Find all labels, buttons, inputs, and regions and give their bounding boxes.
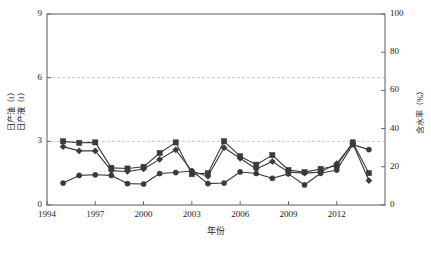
- data-point-circle-2004: [205, 181, 210, 186]
- y-left-label-6: 6: [24, 72, 42, 82]
- data-point-square-1997: [93, 140, 98, 145]
- data-point-square-2008: [270, 153, 275, 158]
- x-label-2009: 2009: [272, 209, 304, 219]
- y-right-label-0: 0: [390, 199, 412, 209]
- data-point-diamond-2008: [269, 158, 275, 164]
- series-diamond: [60, 140, 372, 183]
- data-point-circle-2003: [189, 168, 194, 173]
- data-point-circle-2005: [221, 180, 226, 185]
- x-axis-title: 年份: [196, 224, 236, 237]
- y-right-label-60: 60: [390, 84, 412, 94]
- y-right-label-40: 40: [390, 123, 412, 133]
- y-axis-left-title-liquid: 日产液（t）: [17, 79, 26, 139]
- data-point-circle-1998: [109, 173, 114, 178]
- x-label-2012: 2012: [321, 209, 353, 219]
- y-axis-right-title-watercut: 含水率（%）: [414, 80, 425, 140]
- y-left-label-3: 3: [24, 135, 42, 145]
- chart-container: 0369 020406080100 1994199720002003200620…: [0, 0, 431, 253]
- data-point-diamond-1995: [60, 144, 66, 150]
- data-point-circle-2009: [286, 171, 291, 176]
- data-point-circle-2000: [141, 181, 146, 186]
- x-label-2000: 2000: [128, 209, 160, 219]
- data-point-circle-2001: [157, 171, 162, 176]
- data-point-square-2001: [157, 150, 162, 155]
- data-point-circle-2006: [238, 169, 243, 174]
- data-point-circle-2010: [302, 182, 307, 187]
- y-right-label-20: 20: [390, 161, 412, 171]
- data-point-circle-1996: [77, 173, 82, 178]
- data-point-diamond-2001: [157, 156, 163, 162]
- y-right-label-80: 80: [390, 46, 412, 56]
- data-point-circle-2008: [270, 176, 275, 181]
- data-point-circle-1997: [93, 172, 98, 177]
- data-point-square-1996: [77, 140, 82, 145]
- data-point-circle-2013: [350, 142, 355, 147]
- data-point-circle-1999: [125, 181, 130, 186]
- data-point-circle-2002: [173, 170, 178, 175]
- y-axis-left-title-oil: 日产油（t）: [7, 79, 16, 139]
- x-label-2006: 2006: [224, 209, 256, 219]
- y-left-label-9: 9: [24, 8, 42, 18]
- data-point-circle-2012: [334, 167, 339, 172]
- y-left-label-0: 0: [24, 199, 42, 209]
- data-point-circle-1995: [61, 180, 66, 185]
- x-label-2003: 2003: [176, 209, 208, 219]
- x-label-1994: 1994: [31, 209, 63, 219]
- x-label-1997: 1997: [79, 209, 111, 219]
- data-point-circle-2007: [254, 171, 259, 176]
- plot-frame: [47, 14, 385, 205]
- chart-plot-svg: [0, 0, 431, 253]
- data-point-circle-2011: [318, 171, 323, 176]
- data-point-diamond-1996: [76, 148, 82, 154]
- y-right-label-100: 100: [390, 8, 412, 18]
- data-point-circle-2014: [366, 147, 371, 152]
- series-square: [61, 139, 372, 177]
- data-point-square-2002: [173, 140, 178, 145]
- data-point-diamond-2014: [366, 177, 372, 183]
- data-point-square-2014: [366, 171, 371, 176]
- data-point-square-1995: [61, 139, 66, 144]
- data-point-square-2005: [221, 139, 226, 144]
